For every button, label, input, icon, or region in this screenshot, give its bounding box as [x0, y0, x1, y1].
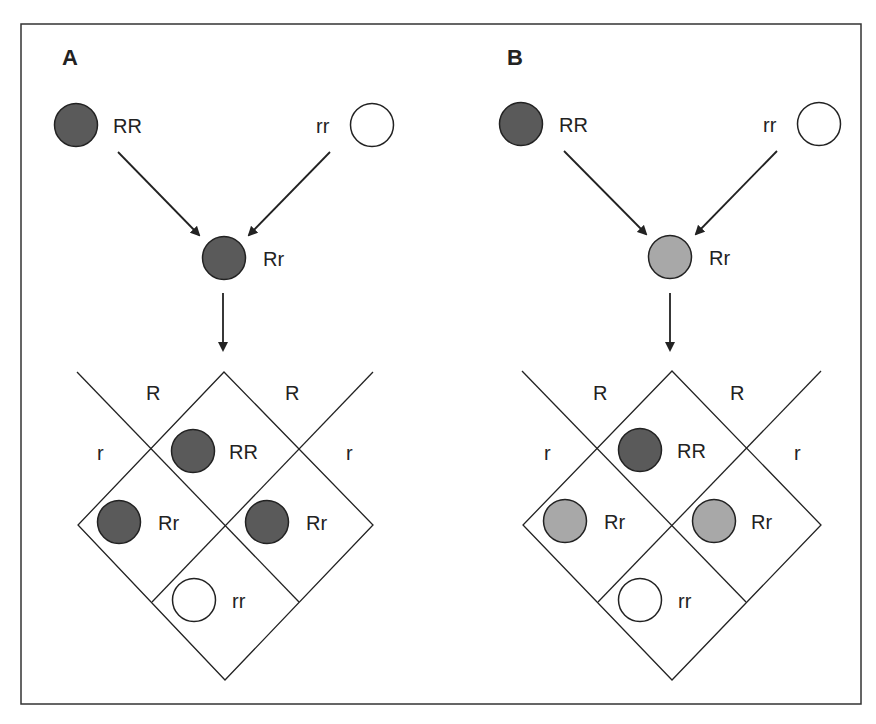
punnett-cell-circle [172, 430, 215, 473]
parent-genotype-label: rr [763, 114, 777, 136]
punnett-cell-circle [246, 501, 289, 544]
f1-genotype-label: Rr [263, 248, 284, 270]
punnett-cell-circle [693, 500, 736, 543]
gamete-label: R [285, 382, 299, 404]
gamete-label: r [794, 442, 801, 464]
panel-label: B [507, 45, 523, 70]
punnett-cell-genotype: Rr [604, 511, 625, 533]
punnett-cell-genotype: rr [232, 590, 246, 612]
gamete-label: R [146, 382, 160, 404]
parent-rr-dominant-circle [500, 103, 543, 146]
parent-rr-recessive-circle [351, 104, 394, 147]
gamete-label: R [593, 382, 607, 404]
punnett-cell-genotype: Rr [306, 512, 327, 534]
punnett-cell-circle [98, 501, 141, 544]
gamete-label: R [730, 382, 744, 404]
parent-rr-dominant-circle [55, 104, 98, 147]
punnett-cell-genotype: Rr [751, 511, 772, 533]
f1-genotype-label: Rr [709, 247, 730, 269]
genetics-diagram: A RR rr Rr R R r r RR Rr Rr rr [0, 0, 876, 724]
figure-frame [21, 24, 861, 704]
parent-genotype-label: rr [316, 115, 330, 137]
f1-offspring-circle [649, 236, 692, 279]
punnett-cell-circle [619, 429, 662, 472]
punnett-cell-genotype: rr [678, 590, 692, 612]
punnett-cell-genotype: Rr [158, 512, 179, 534]
f1-offspring-circle [203, 237, 246, 280]
gamete-label: r [544, 442, 551, 464]
punnett-cell-circle [173, 579, 216, 622]
punnett-cell-circle [544, 500, 587, 543]
gamete-label: r [97, 442, 104, 464]
parent-genotype-label: RR [559, 114, 588, 136]
parent-genotype-label: RR [113, 115, 142, 137]
punnett-cell-genotype: RR [229, 441, 258, 463]
gamete-label: r [346, 442, 353, 464]
panel-label: A [62, 45, 78, 70]
parent-rr-recessive-circle [798, 103, 841, 146]
punnett-cell-genotype: RR [677, 440, 706, 462]
punnett-cell-circle [619, 579, 662, 622]
